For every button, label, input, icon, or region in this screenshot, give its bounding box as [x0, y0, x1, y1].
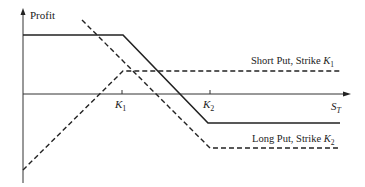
short-put-k1-label: Short Put, Strike K1 [251, 55, 334, 69]
tick-k2-label: K2 [202, 98, 214, 113]
y-axis-arrow-icon [21, 8, 26, 15]
long-put-k2-line [82, 20, 340, 148]
y-axis-label: Profit [30, 9, 55, 21]
tick-k2: K2 [202, 90, 214, 113]
x-axis-label: ST [331, 100, 342, 115]
long-put-k2-label: Long Put, Strike K2 [252, 133, 335, 147]
bear-spread-line [23, 35, 340, 123]
x-axis: ST [23, 92, 351, 116]
tick-k1-label: K1 [114, 98, 126, 113]
short-put-k1-line [23, 71, 340, 170]
bear-spread-diagram: Profit ST K1 K2 Short Put, Strike K1 Lon… [0, 0, 365, 187]
x-axis-arrow-icon [343, 92, 351, 97]
tick-k1: K1 [114, 90, 126, 113]
